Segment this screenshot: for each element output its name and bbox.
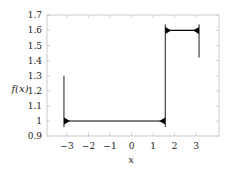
chart: −3−2−10123 0.911.11.21.31.41.51.61.7 x f… <box>0 0 228 173</box>
y-tick-label: 1.4 <box>28 56 43 66</box>
y-tick-label: 1 <box>36 116 42 126</box>
x-tick-label: −1 <box>103 141 116 151</box>
y-tick-label: 1.2 <box>28 86 42 96</box>
x-tick-label: 0 <box>129 141 135 151</box>
x-tick-label: −2 <box>82 141 95 151</box>
y-tick-label: 1.1 <box>28 101 42 111</box>
x-tick-label: −3 <box>60 141 74 151</box>
x-tick-label: 1 <box>150 141 156 151</box>
y-tick-label: 0.9 <box>28 131 43 141</box>
y-tick-label: 1.5 <box>28 41 43 51</box>
y-axis-label: f(x) <box>10 83 28 94</box>
y-tick-label: 1.3 <box>28 71 43 81</box>
data-curve <box>64 24 199 127</box>
x-tick-label: 2 <box>172 141 178 151</box>
x-axis-ticks: −3−2−10123 <box>60 15 199 151</box>
plot-frame <box>47 15 219 136</box>
y-tick-label: 1.7 <box>28 10 43 20</box>
y-tick-label: 1.6 <box>28 25 43 35</box>
x-axis-label: x <box>128 154 134 165</box>
x-tick-label: 3 <box>193 141 199 151</box>
